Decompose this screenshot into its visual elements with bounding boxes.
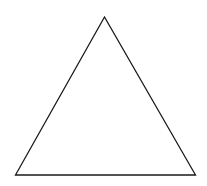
triangle-shape — [16, 17, 196, 175]
triangle-diagram — [0, 0, 207, 186]
diagram-canvas — [0, 0, 207, 186]
